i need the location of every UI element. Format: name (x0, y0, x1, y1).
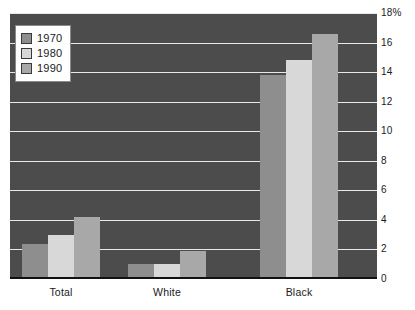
x-tick-label-white: White (153, 286, 181, 298)
y-tick-label: 4 (381, 215, 387, 225)
y-tick-label: 10 (381, 126, 393, 136)
legend-swatch-icon (21, 63, 32, 74)
legend-swatch-icon (21, 48, 32, 59)
y-tick-label: 6 (381, 185, 387, 195)
legend-item-label: 1990 (37, 63, 62, 74)
bar-white-1990 (180, 251, 206, 277)
legend-item-label: 1970 (37, 33, 62, 44)
bar-black-1970 (260, 75, 286, 277)
bar-white-1980 (154, 264, 180, 277)
y-tick-label: 8 (381, 156, 387, 166)
y-tick-label: 12 (381, 97, 393, 107)
y-tick-label: 14 (381, 67, 393, 77)
x-tick-label-total: Total (49, 286, 72, 298)
bar-total-1990 (74, 217, 100, 277)
bar-black-1990 (312, 34, 338, 277)
legend-item-1990: 1990 (21, 61, 62, 75)
bar-group-white (128, 13, 206, 279)
legend-swatch-icon (21, 33, 32, 44)
bar-group-black (260, 13, 338, 279)
legend-item-1980: 1980 (21, 46, 62, 60)
y-tick-label: 16 (381, 38, 393, 48)
bar-white-1970 (128, 264, 154, 277)
y-tick-label: 2 (381, 244, 387, 254)
y-tick-label: 0 (381, 274, 387, 284)
bar-chart-figure: 18%1614121086420 TotalWhiteBlack 1970198… (0, 0, 415, 310)
y-axis: 18%1614121086420 (379, 13, 415, 279)
chart-legend: 197019801990 (15, 25, 71, 82)
bar-black-1980 (286, 60, 312, 277)
legend-item-1970: 1970 (21, 31, 62, 45)
bar-total-1980 (48, 235, 74, 277)
bar-total-1970 (22, 244, 48, 277)
x-tick-label-black: Black (286, 286, 313, 298)
y-tick-label: 18% (381, 8, 402, 18)
x-axis: TotalWhiteBlack (10, 286, 377, 306)
legend-item-label: 1980 (37, 48, 62, 59)
